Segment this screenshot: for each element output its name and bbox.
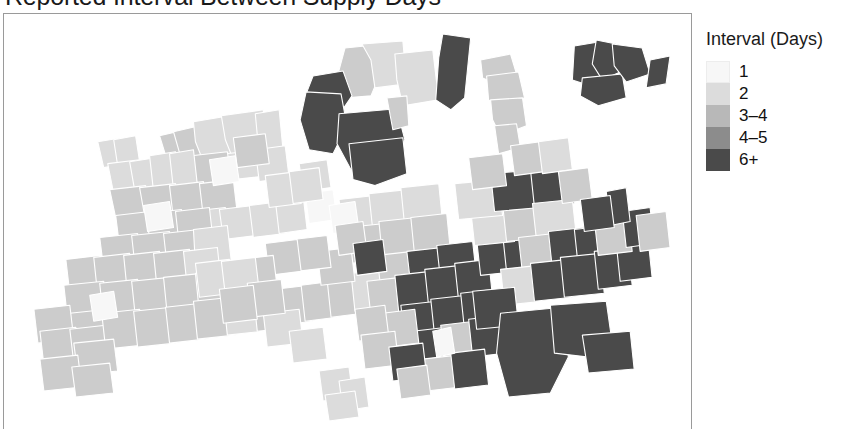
legend-row: 3–4 — [706, 105, 861, 127]
map-region[interactable] — [451, 349, 489, 389]
legend-swatch — [706, 149, 730, 171]
legend: Interval (Days) 123–44–56+ — [706, 28, 861, 171]
legend-row: 1 — [706, 61, 861, 83]
map-svg[interactable] — [4, 14, 691, 429]
map-region[interactable] — [580, 74, 626, 106]
legend-row: 6+ — [706, 149, 861, 171]
legend-swatch — [706, 127, 730, 149]
legend-label: 1 — [739, 61, 748, 83]
legend-row: 4–5 — [706, 127, 861, 149]
map-region[interactable] — [144, 202, 174, 232]
choropleth-map-figure: Reported Interval Between Supply Days In… — [0, 0, 865, 429]
map-region[interactable] — [289, 327, 327, 363]
legend-label: 4–5 — [739, 127, 767, 149]
map-region[interactable] — [538, 138, 572, 174]
legend-row: 2 — [706, 83, 861, 105]
map-region[interactable] — [289, 168, 323, 204]
map-region[interactable] — [325, 391, 359, 421]
legend-label: 3–4 — [739, 105, 767, 127]
map-region[interactable] — [233, 134, 269, 168]
page-title: Reported Interval Between Supply Days — [5, 0, 441, 10]
map-panel[interactable] — [3, 13, 692, 429]
map-region[interactable] — [582, 331, 634, 373]
map-regions-group — [34, 34, 670, 421]
map-region[interactable] — [433, 327, 455, 357]
map-region[interactable] — [646, 56, 670, 88]
map-region[interactable] — [72, 363, 114, 397]
legend-title: Interval (Days) — [706, 28, 861, 50]
legend-swatch — [706, 105, 730, 127]
map-region[interactable] — [209, 156, 239, 186]
map-region[interactable] — [397, 365, 431, 399]
legend-items: 123–44–56+ — [706, 61, 861, 171]
map-region[interactable] — [636, 212, 670, 252]
legend-label: 6+ — [739, 149, 758, 171]
map-region[interactable] — [580, 196, 614, 232]
map-region[interactable] — [469, 154, 507, 190]
map-region[interactable] — [219, 285, 257, 323]
map-region[interactable] — [353, 239, 387, 275]
legend-swatch — [706, 61, 730, 83]
map-region[interactable] — [436, 34, 471, 110]
map-region[interactable] — [90, 291, 118, 321]
legend-swatch — [706, 83, 730, 105]
legend-label: 2 — [739, 83, 748, 105]
map-region[interactable] — [349, 138, 407, 186]
